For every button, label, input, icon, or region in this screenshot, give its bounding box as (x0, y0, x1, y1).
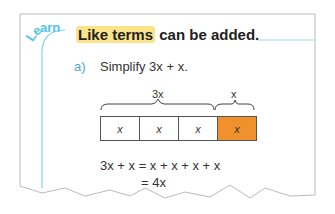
working-line-2: = 4x (141, 175, 166, 190)
group-label-x: x (231, 88, 237, 100)
bar-cell: x (178, 116, 218, 141)
group-label-3x: 3x (152, 88, 164, 100)
working-line-1: 3x + x = x + x + x + x (100, 158, 220, 173)
bar-cell-highlighted: x (217, 116, 257, 141)
heading-highlight: Like terms (76, 26, 155, 43)
bar-cell: x (139, 116, 179, 141)
question-label: a) (74, 59, 86, 74)
bar-cell: x (100, 116, 140, 141)
question-text: Simplify 3x + x. (100, 59, 188, 74)
heading-rest: can be added. (155, 26, 259, 43)
bar-model: x x x x (101, 116, 257, 141)
section-heading: Like terms can be added. (76, 26, 259, 43)
learn-card: L e arn Like terms can be added. a) Simp… (0, 0, 335, 214)
